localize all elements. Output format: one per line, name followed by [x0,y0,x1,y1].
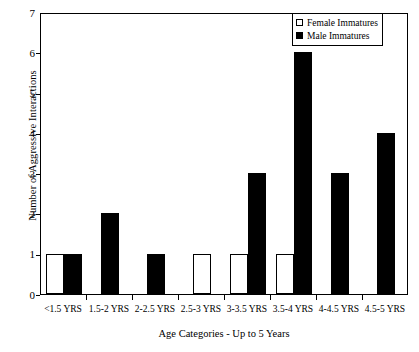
bar-female [276,254,294,294]
bar-group [41,14,87,294]
y-tick-label: 6 [19,48,35,59]
bars-layer [41,14,407,294]
bar-group [87,14,133,294]
bar-male [64,254,82,294]
x-tick-label: 4-4.5 YRS [319,303,359,315]
bar-group [179,14,225,294]
bar-group [225,14,271,294]
y-axis-title: Number of Aggressive Interactions [27,26,38,266]
x-tick-label: 2.5-3 YRS [181,303,221,315]
y-tick-label: 4 [19,128,35,139]
y-tick-label: 5 [19,88,35,99]
y-tick-mark [36,295,40,296]
legend-swatch-female [296,19,303,26]
bar-chart-figure: Number of Aggressive Interactions 012345… [0,0,419,352]
legend-item: Female Immatures [296,16,378,29]
bar-group [363,14,409,294]
bar-group [317,14,363,294]
legend-item: Male Immatures [296,29,378,42]
x-tick-mark [316,295,317,300]
legend-label: Female Immatures [307,18,378,28]
x-tick-mark [270,295,271,300]
x-tick-label: <1.5 YRS [44,303,82,315]
x-tick-mark [224,295,225,300]
x-tick-label: 4.5-5 YRS [365,303,405,315]
bar-male [147,254,165,294]
x-tick-label: 1.5-2 YRS [89,303,129,315]
x-tick-mark [132,295,133,300]
x-tick-mark [178,295,179,300]
bar-group [133,14,179,294]
x-axis-title: Age Categories - Up to 5 Years [40,328,408,339]
x-tick-mark [86,295,87,300]
y-tick-label: 7 [19,8,35,19]
y-tick-label: 3 [19,169,35,180]
y-tick-label: 1 [19,249,35,260]
legend-swatch-male [296,32,303,39]
bar-male [377,133,395,294]
bar-male [331,173,349,294]
bar-female [193,254,211,294]
bar-female [230,254,248,294]
x-tick-mark [362,295,363,300]
bar-male [101,213,119,294]
y-tick-label: 0 [19,290,35,301]
x-tick-label: 3-3.5 YRS [227,303,267,315]
plot-area [40,13,408,295]
x-tick-label: 3.5-4 YRS [273,303,313,315]
legend-label: Male Immatures [307,31,370,41]
bar-male [294,52,312,294]
bar-male [248,173,266,294]
x-tick-label: 2-2.5 YRS [135,303,175,315]
chart-legend: Female ImmaturesMale Immatures [292,13,383,46]
bar-group [271,14,317,294]
bar-female [46,254,64,294]
y-tick-label: 2 [19,209,35,220]
